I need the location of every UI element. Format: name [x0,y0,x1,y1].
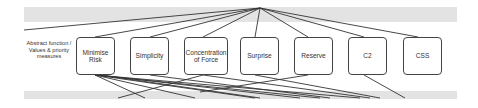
node-c2[interactable]: C2 [348,37,387,75]
node-label: C2 [363,52,371,59]
node-css[interactable]: CSS [403,37,442,75]
node-label: Concentration of Force [185,49,226,63]
node-label: Reserve [301,52,326,59]
node-minimise-risk[interactable]: Minimise Risk [76,37,115,75]
abstraction-hierarchy-diagram: Abstract function / Values & priority me… [0,0,478,108]
node-simplicity[interactable]: Simplicity [130,37,169,75]
node-label: Simplicity [136,52,164,59]
node-surprise[interactable]: Surprise [240,37,279,75]
node-reserve[interactable]: Reserve [294,37,333,75]
node-concentration-of-force[interactable]: Concentration of Force [184,37,228,75]
node-label: Minimise Risk [78,49,113,63]
node-label: CSS [416,52,430,59]
level-label: Abstract function / Values & priority me… [24,40,74,60]
node-label: Surprise [247,52,272,59]
